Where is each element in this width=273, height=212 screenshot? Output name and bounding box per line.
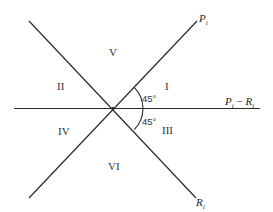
region-label-ii: II (57, 80, 65, 92)
diff-axis-minus: − (234, 95, 246, 107)
angle-label-lower: 45° (142, 116, 157, 127)
region-label-v: V (109, 46, 117, 58)
region-label-vi: VI (108, 160, 120, 172)
diff-axis-label: Pi − Ri (224, 95, 254, 110)
p-axis-label: Pi (198, 12, 208, 27)
region-label-i: I (165, 80, 169, 92)
r-axis-label: Ri (195, 196, 205, 211)
region-diagram: 45° 45° V II I IV III VI Pi Pi − Ri Ri (0, 0, 273, 212)
region-label-iii: III (162, 124, 173, 136)
diff-axis-r-sub: i (252, 102, 254, 110)
origin-point (112, 107, 115, 110)
angle-label-upper: 45° (142, 93, 157, 104)
region-label-iv: IV (58, 125, 70, 137)
r-axis-label-sub: i (203, 203, 205, 211)
p-axis-label-sub: i (206, 19, 208, 27)
